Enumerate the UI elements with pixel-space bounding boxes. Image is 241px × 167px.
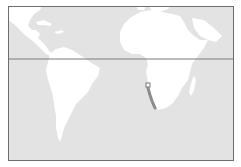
location-marker-icon[interactable] bbox=[146, 83, 150, 87]
map-view[interactable] bbox=[0, 0, 241, 167]
map-canvas[interactable] bbox=[0, 0, 241, 167]
